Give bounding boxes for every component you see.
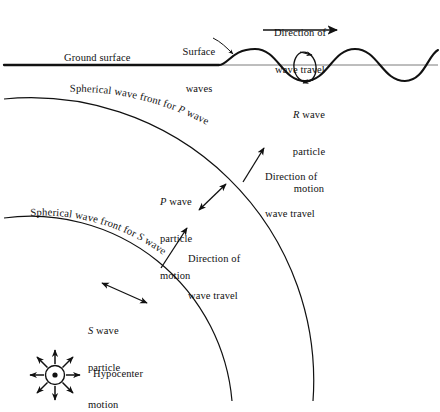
hypocenter-dot — [52, 372, 57, 377]
direction-s-line-2: wave travel — [188, 290, 278, 302]
p-particle-line-1: P wave — [160, 196, 220, 208]
hypocenter-symbol-group — [30, 350, 80, 400]
surface-waves-line-2: waves — [176, 83, 222, 95]
surface-waves-line-1: Surface — [176, 46, 222, 58]
s-wave-front-label: Spherical wave front for S wave — [30, 207, 169, 257]
surface-waves-label: Surface waves — [176, 22, 222, 120]
r-wave-line-1: R wave — [281, 109, 337, 121]
s-wave-particle-motion-label: S wave particle motion — [88, 301, 148, 412]
double-headed-arrow-icon — [102, 283, 147, 303]
s-particle-line-3: motion — [88, 399, 148, 411]
direction-of-travel-p-label: Direction of wave travel — [265, 147, 355, 245]
direction-top-line-1: Direction of — [250, 27, 350, 39]
direction-s-line-1: Direction of — [188, 253, 278, 265]
s-particle-motion-arrow-group — [102, 283, 147, 303]
direction-of-travel-s-label: Direction of wave travel — [188, 229, 278, 327]
hypocenter-label: Hypocenter — [93, 368, 143, 380]
p-particle-word: wave — [167, 196, 192, 207]
s-particle-line-1: S wave — [88, 325, 148, 337]
direction-arrow-p-group — [243, 148, 264, 182]
ground-surface-label: Ground surface — [64, 52, 130, 64]
s-particle-word: wave — [93, 325, 118, 336]
direction-p-line-1: Direction of — [265, 171, 355, 183]
r-wave-word: wave — [300, 109, 325, 120]
diagonal-arrow-icon — [243, 148, 264, 182]
direction-p-line-2: wave travel — [265, 208, 355, 220]
p-front-prefix: Spherical wave front for — [70, 83, 181, 114]
direction-top-line-2: wave travel — [250, 64, 350, 76]
